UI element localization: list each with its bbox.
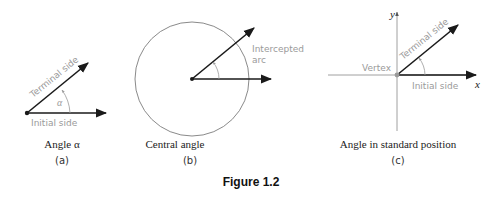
angle-alpha-label: α <box>57 97 63 108</box>
panel-c-sublabel: (c) <box>391 155 404 166</box>
center-dot <box>190 77 194 81</box>
x-axis-label: x <box>474 78 480 90</box>
angle-arc <box>62 90 70 113</box>
vertex-dot <box>25 111 29 115</box>
angle-arc <box>213 62 219 79</box>
panel-a-sublabel: (a) <box>55 155 69 166</box>
panel-a-caption: Angle α <box>44 138 80 150</box>
panel-b-sublabel: (b) <box>183 155 197 166</box>
intercepted-arc-label-line1: Intercepted <box>252 44 304 54</box>
terminal-side-ray <box>192 28 254 79</box>
intercepted-arc-label-line2: arc <box>252 55 266 65</box>
panel-b: Intercepted arc Central angle (b) <box>135 22 304 166</box>
figure-title: Figure 1.2 <box>223 175 280 189</box>
angle-arc <box>419 58 425 75</box>
initial-side-label: Initial side <box>31 118 78 128</box>
panel-a: Terminal side α Initial side Angle α (a) <box>25 54 106 166</box>
figure-canvas: Terminal side α Initial side Angle α (a)… <box>0 0 502 202</box>
panel-b-caption: Central angle <box>146 138 205 150</box>
panel-c: y x Vertex Terminal side Initial side An… <box>328 8 480 166</box>
panel-c-caption: Angle in standard position <box>340 138 457 150</box>
y-axis-label: y <box>389 8 395 20</box>
terminal-side-label: Terminal side <box>397 16 451 62</box>
vertex-dot <box>395 73 400 78</box>
initial-side-label: Initial side <box>412 81 459 91</box>
terminal-side-label: Terminal side <box>27 54 81 100</box>
vertex-label: Vertex <box>362 63 392 73</box>
